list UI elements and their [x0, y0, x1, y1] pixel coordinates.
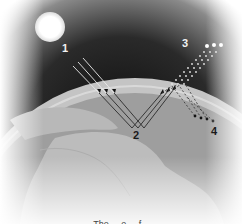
label-surface-reflection: 2	[133, 130, 139, 141]
earth-radiation-diagram	[0, 0, 242, 224]
figure-caption: The ... e ... f...	[0, 219, 242, 224]
label-scattered-radiation: 3	[182, 38, 188, 49]
label-reflected-radiation: 4	[211, 126, 217, 137]
edge-fade-bottom	[0, 0, 242, 224]
label-incoming-radiation: 1	[62, 43, 68, 54]
